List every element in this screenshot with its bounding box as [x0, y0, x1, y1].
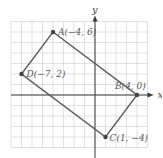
y-axis-arrow-icon — [93, 16, 98, 22]
y-axis-label: y — [91, 4, 98, 15]
vertex-a-label: A(−4, 6) — [57, 27, 97, 37]
vertex-b — [135, 93, 139, 97]
vertex-c — [103, 135, 107, 139]
vertices: A(−4, 6) B(4, 0) C(1, −4) D(−7, 2) — [19, 27, 148, 143]
x-axis-arrow-icon — [148, 93, 154, 98]
vertex-b-label: B(4, 0) — [114, 81, 146, 91]
vertex-d — [19, 72, 23, 76]
vertex-a — [51, 30, 55, 34]
vertex-c-label: C(1, −4) — [110, 133, 149, 143]
x-axis-label: x — [158, 89, 163, 100]
coordinate-plane-diagram: x y A(−4, 6) B(4, 0) C(1, −4) D(−7, 2) — [0, 0, 162, 158]
vertex-d-label: D(−7, 2) — [26, 69, 66, 79]
